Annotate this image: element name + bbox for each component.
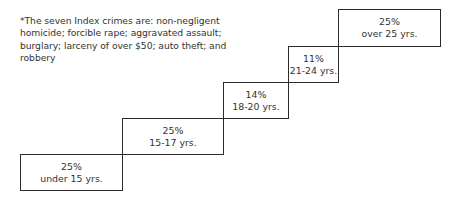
step-percent: 11% (303, 53, 324, 65)
step-percent: 25% (163, 125, 184, 137)
step-over-25: 25% over 25 yrs. (338, 9, 441, 47)
step-age-label: 18-20 yrs. (232, 101, 280, 113)
step-age-label: 15-17 yrs. (149, 137, 197, 149)
step-percent: 25% (379, 16, 400, 28)
step-age-label: over 25 yrs. (361, 28, 417, 40)
step-under-15: 25% under 15 yrs. (20, 154, 123, 191)
step-percent: 25% (61, 161, 82, 173)
step-21-24: 11% 21-24 yrs. (288, 46, 339, 83)
step-15-17: 25% 15-17 yrs. (122, 118, 224, 155)
step-age-label: 21-24 yrs. (290, 65, 338, 77)
step-18-20: 14% 18-20 yrs. (223, 82, 289, 119)
step-age-label: under 15 yrs. (40, 173, 103, 185)
footnote-index-crimes: *The seven Index crimes are: non-neglige… (20, 15, 250, 64)
step-percent: 14% (246, 89, 267, 101)
